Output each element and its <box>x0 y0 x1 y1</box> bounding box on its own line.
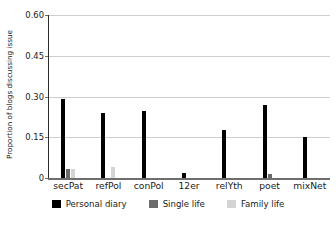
bar-group <box>142 15 156 178</box>
bar <box>66 169 70 179</box>
bar <box>268 174 272 178</box>
y-axis-tick-label: 0.60 <box>25 10 44 20</box>
bar <box>182 173 186 178</box>
legend-label: Personal diary <box>66 199 127 209</box>
legend-swatch-icon <box>149 200 158 208</box>
y-axis-tick-labels: 00.150.300.450.60 <box>16 0 46 225</box>
bar <box>303 137 307 178</box>
bar-group <box>263 15 277 178</box>
legend-label: Single life <box>163 199 205 209</box>
bar-group <box>222 15 236 178</box>
bar <box>222 130 226 178</box>
y-axis-title: Proportion of blogs discussing issue <box>2 8 16 180</box>
x-axis-tick-label: relYth <box>216 180 243 191</box>
x-axis-tick-label: refPol <box>95 180 121 191</box>
legend-swatch-icon <box>52 200 61 208</box>
y-axis-tick-label: 0.30 <box>25 92 44 102</box>
y-axis-tick-label: 0.45 <box>25 51 44 61</box>
x-axis-tick-label: secPat <box>53 180 83 191</box>
bar-groups <box>48 15 330 178</box>
y-axis-title-text: Proportion of blogs discussing issue <box>5 29 14 158</box>
bar-group <box>303 15 317 178</box>
y-axis-tick-mark <box>45 15 48 16</box>
bar-group <box>182 15 196 178</box>
bar-group <box>61 15 75 178</box>
bar <box>111 167 115 178</box>
legend-label: Family life <box>241 199 284 209</box>
x-axis-tick-label: conPol <box>134 180 164 191</box>
legend-item[interactable]: Family life <box>227 199 284 209</box>
legend-swatch-icon <box>227 200 236 208</box>
x-axis-tick-label: poet <box>259 180 280 191</box>
bar-chart: Proportion of blogs discussing issue 00.… <box>0 0 336 225</box>
plot-area <box>48 15 330 178</box>
chart-legend: Personal diarySingle lifeFamily life <box>0 199 336 209</box>
legend-item[interactable]: Personal diary <box>52 199 127 209</box>
bar <box>71 169 75 179</box>
x-axis-tick-label: mixNet <box>293 180 326 191</box>
y-axis-tick-mark <box>45 56 48 57</box>
y-axis-tick-mark <box>45 178 48 179</box>
bar <box>61 99 65 178</box>
y-axis-tick-label: 0 <box>39 173 44 183</box>
bar <box>142 111 146 178</box>
bar <box>263 105 267 178</box>
x-axis-tick-labels: secPatrefPolconPol12errelYthpoetmixNet <box>48 180 330 196</box>
y-axis-tick-label: 0.15 <box>25 132 44 142</box>
x-axis-tick-label: 12er <box>178 180 199 191</box>
legend-item[interactable]: Single life <box>149 199 205 209</box>
y-axis-tick-mark <box>45 137 48 138</box>
bar <box>101 113 105 178</box>
bar-group <box>101 15 115 178</box>
y-axis-tick-mark <box>45 97 48 98</box>
